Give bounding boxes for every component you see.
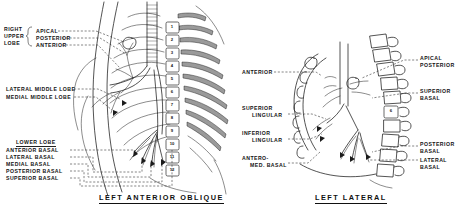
label-apical-posterior-line-2: POSTERIOR [420,62,455,69]
caption-left-anterior-oblique: LEFT ANTERIOR OBLIQUE [99,193,224,204]
label-lateral-posterior-basal-line-1: POSTERIOR [420,141,455,148]
bronchial-tree-lateral [300,77,376,177]
label-superior-lingular-line-1: SUPERIOR [242,105,273,112]
vertebra-number-5: 5 [168,76,176,81]
label-lateral-basal-line-1: LATERAL [420,157,447,164]
label-antero-med-basal-line-1: ANTERO- [242,155,269,162]
label-superior-lingular-line-2: LINGULAR [252,112,282,119]
bronchial-tree [92,37,166,167]
sternum [293,57,317,158]
label-apical: APICAL [36,28,58,35]
anatomy-figure: RIGHT UPPER LOBE APICAL POSTERIOR ANTERI… [0,0,464,211]
label-superior-basal-line-1: SUPERIOR [420,88,451,95]
leader-lines-lower [70,150,172,186]
label-anterior-basal: ANTERIOR BASAL [6,147,59,154]
vertebra-number-4: 4 [168,63,176,68]
label-superior-basal-line-2: BASAL [420,95,440,102]
label-lateral-anterior: ANTERIOR [242,69,273,76]
label-superior-basal: SUPERIOR BASAL [6,175,59,182]
group-label-right-upper-lobe-line-3: LOBE [4,40,20,47]
ribs-right [178,13,228,172]
label-inferior-lingular-line-2: LINGULAR [252,137,282,144]
vertebra-number-11: 11 [168,154,176,159]
label-posterior: POSTERIOR [36,35,71,42]
vertebra-number-7: 7 [168,102,176,107]
ribs-left [110,13,171,157]
vertebra-number-1: 1 [168,24,176,29]
trachea [147,2,157,66]
caption-left-lateral: LEFT LATERAL [315,193,387,204]
left-lateral-artwork [274,34,418,188]
vertebra-number-10: 10 [168,141,176,146]
heading-lower-lobe: LOWER LOBE [16,139,56,147]
vertebrae-boxes [166,22,179,176]
vertebra-number-8: 8 [168,115,176,120]
label-medial-middle-lobe: MEDIAL MIDDLE LOBE [6,94,71,101]
label-lateral-posterior-basal-line-2: BASAL [420,148,440,155]
vertebra-number-6: 6 [168,89,176,94]
upper-lobe-brace [26,27,32,46]
vertebra-number-2: 2 [168,37,176,42]
label-lateral-basal-line-2: BASAL [420,164,440,171]
vertebra-number-3: 3 [168,50,176,55]
group-label-right-upper-lobe-line-1: RIGHT [4,26,22,33]
figure-artwork [0,0,464,211]
vertebra-number-12: 12 [168,167,176,172]
group-label-right-upper-lobe-line-2: UPPER [4,33,24,40]
label-apical-posterior-line-1: APICAL [420,55,442,62]
label-anterior: ANTERIOR [36,42,67,49]
label-medial-basal: MEDIAL BASAL [6,161,51,168]
vertebra-number-9: 9 [168,128,176,133]
label-inferior-lingular-line-1: INFERIOR [242,130,270,137]
label-lateral-basal: LATERAL BASAL [6,154,55,161]
label-lateral-middle-lobe: LATERAL MIDDLE LOBE [6,86,75,93]
label-posterior-basal: POSTERIOR BASAL [6,168,63,175]
lateral-vertebra-number-6: 6 [387,108,395,113]
label-antero-med-basal-line-2: MED. BASAL [250,162,287,169]
